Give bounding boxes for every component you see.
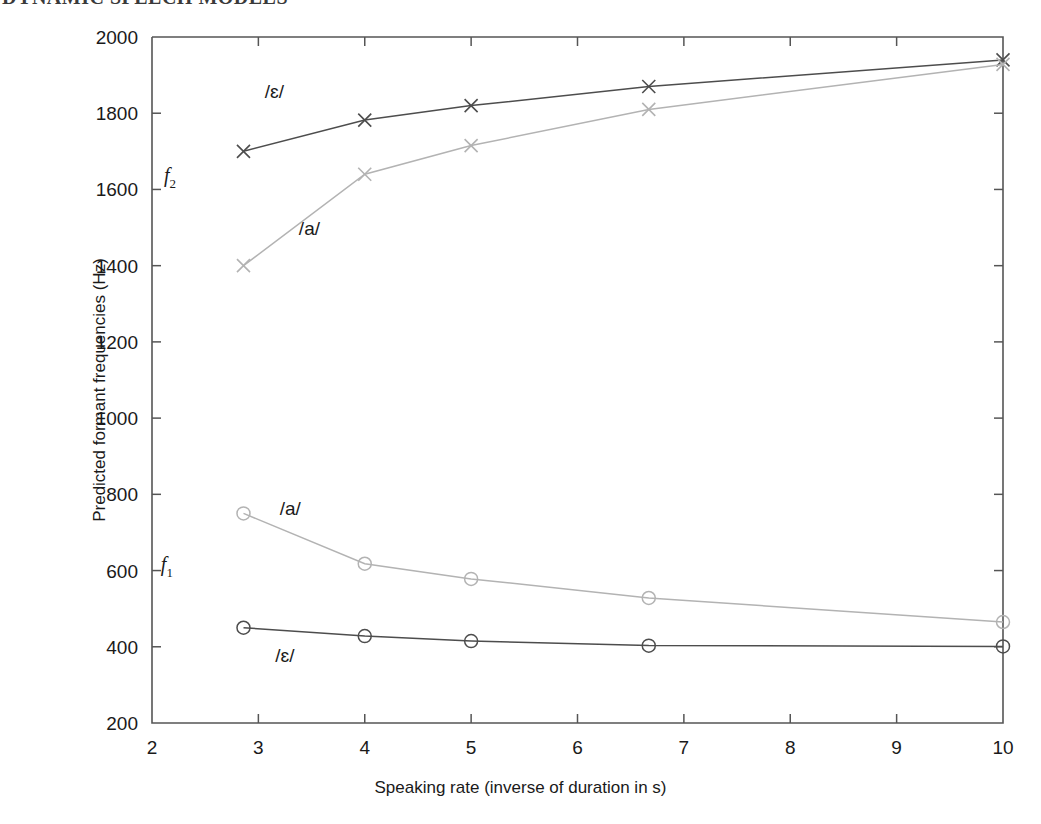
series-line — [244, 64, 1004, 265]
annotation-f2: f2 — [164, 164, 176, 191]
chart-annotations: f2f1/ɛ//a//a//ɛ/ — [161, 81, 321, 666]
y-tick-label: 800 — [106, 484, 138, 505]
formant-frequency-chart: 2345678910200400600800100012001400160018… — [0, 0, 1041, 824]
x-tick-label: 4 — [359, 737, 370, 758]
series-line — [244, 513, 1004, 622]
y-tick-label: 600 — [106, 561, 138, 582]
data-point-cross-marker — [237, 259, 250, 272]
annotation-vowel-label: /a/ — [299, 218, 321, 239]
series-line — [244, 628, 1004, 647]
data-point-cross-marker — [465, 139, 478, 152]
x-tick-label: 8 — [785, 737, 796, 758]
chart-tick-labels: 2345678910200400600800100012001400160018… — [96, 27, 1014, 758]
x-tick-label: 9 — [891, 737, 902, 758]
y-axis-title: Predicted formant frequencies (Hz) — [90, 258, 109, 522]
x-tick-label: 3 — [253, 737, 264, 758]
series-f1-eps — [237, 621, 1010, 653]
data-point-cross-marker — [358, 168, 371, 181]
chart-ticks — [152, 37, 1003, 723]
annotation-vowel-label: /a/ — [280, 498, 302, 519]
x-tick-label: 2 — [147, 737, 158, 758]
chart-axes — [152, 37, 1003, 723]
y-tick-label: 200 — [106, 713, 138, 734]
chart-canvas: 2345678910200400600800100012001400160018… — [0, 0, 1041, 824]
x-tick-label: 10 — [992, 737, 1013, 758]
series-f1-a — [237, 507, 1010, 629]
series-f2-a — [237, 58, 1010, 272]
plot-frame — [152, 37, 1003, 723]
x-axis-title: Speaking rate (inverse of duration in s) — [0, 778, 1041, 798]
x-tick-label: 5 — [466, 737, 477, 758]
series-line — [244, 60, 1004, 151]
annotation-vowel-label: /ɛ/ — [265, 81, 285, 102]
annotation-vowel-label: /ɛ/ — [275, 645, 295, 666]
x-tick-label: 7 — [679, 737, 690, 758]
y-axis-title-container: Predicted formant frequencies (Hz) — [90, 40, 110, 740]
x-tick-label: 6 — [572, 737, 583, 758]
series-f2-eps — [237, 53, 1010, 157]
y-tick-label: 400 — [106, 637, 138, 658]
data-point-circle-marker — [237, 507, 250, 520]
chart-series — [237, 53, 1010, 653]
data-point-cross-marker — [237, 145, 250, 158]
annotation-f1: f1 — [161, 553, 173, 580]
